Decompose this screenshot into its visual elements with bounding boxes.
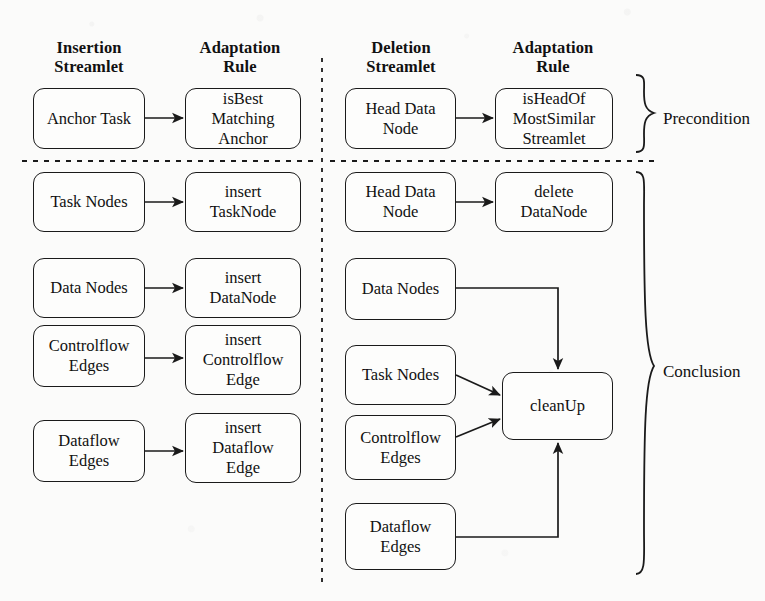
node-insertion-conclusion-streamlet-2: Controlflow Edges bbox=[33, 325, 145, 387]
brace-precondition bbox=[636, 75, 654, 152]
node-insertion-conclusion-rule-3: insert Dataflow Edge bbox=[185, 413, 301, 483]
node-deletion-conclusion-streamlet-4: Dataflow Edges bbox=[345, 503, 456, 570]
node-deletion-cleanup-rule: cleanUp bbox=[502, 372, 613, 440]
node-deletion-conclusion-rule-0: delete DataNode bbox=[495, 172, 613, 232]
node-insertion-precondition-streamlet: Anchor Task bbox=[33, 88, 145, 149]
brace-conclusion bbox=[636, 172, 654, 574]
arrow-deletion-dataflow-to-cleanup bbox=[456, 443, 558, 537]
node-deletion-conclusion-streamlet-2: Task Nodes bbox=[345, 345, 456, 405]
column-header-insertion-adaptation-rule: Adaptation Rule bbox=[175, 38, 305, 76]
section-label-conclusion: Conclusion bbox=[663, 362, 740, 382]
arrow-deletion-tasknodes-to-cleanup bbox=[456, 375, 500, 395]
node-insertion-precondition-rule: isBest Matching Anchor bbox=[185, 88, 301, 149]
node-insertion-conclusion-streamlet-1: Data Nodes bbox=[33, 258, 145, 318]
figure-canvas: Insertion Streamlet Adaptation Rule Dele… bbox=[0, 0, 765, 601]
arrow-deletion-datanodes-to-cleanup bbox=[456, 288, 558, 369]
section-label-precondition: Precondition bbox=[663, 109, 750, 129]
node-deletion-conclusion-streamlet-3: Controlflow Edges bbox=[345, 415, 456, 480]
column-header-deletion-streamlet: Deletion Streamlet bbox=[336, 38, 466, 76]
node-insertion-conclusion-rule-1: insert DataNode bbox=[185, 258, 301, 318]
node-deletion-precondition-streamlet: Head Data Node bbox=[345, 88, 456, 149]
node-insertion-conclusion-streamlet-0: Task Nodes bbox=[33, 172, 145, 232]
node-insertion-conclusion-rule-2: insert Controlflow Edge bbox=[185, 325, 301, 395]
node-deletion-precondition-rule: isHeadOf MostSimilar Streamlet bbox=[495, 88, 613, 149]
node-insertion-conclusion-streamlet-3: Dataflow Edges bbox=[33, 420, 145, 482]
arrow-deletion-controlflow-to-cleanup bbox=[456, 419, 500, 437]
node-deletion-conclusion-streamlet-1: Data Nodes bbox=[345, 258, 456, 320]
node-insertion-conclusion-rule-0: insert TaskNode bbox=[185, 172, 301, 232]
column-header-deletion-adaptation-rule: Adaptation Rule bbox=[488, 38, 618, 76]
node-deletion-conclusion-streamlet-0: Head Data Node bbox=[345, 172, 456, 232]
column-header-insertion-streamlet: Insertion Streamlet bbox=[22, 38, 156, 76]
